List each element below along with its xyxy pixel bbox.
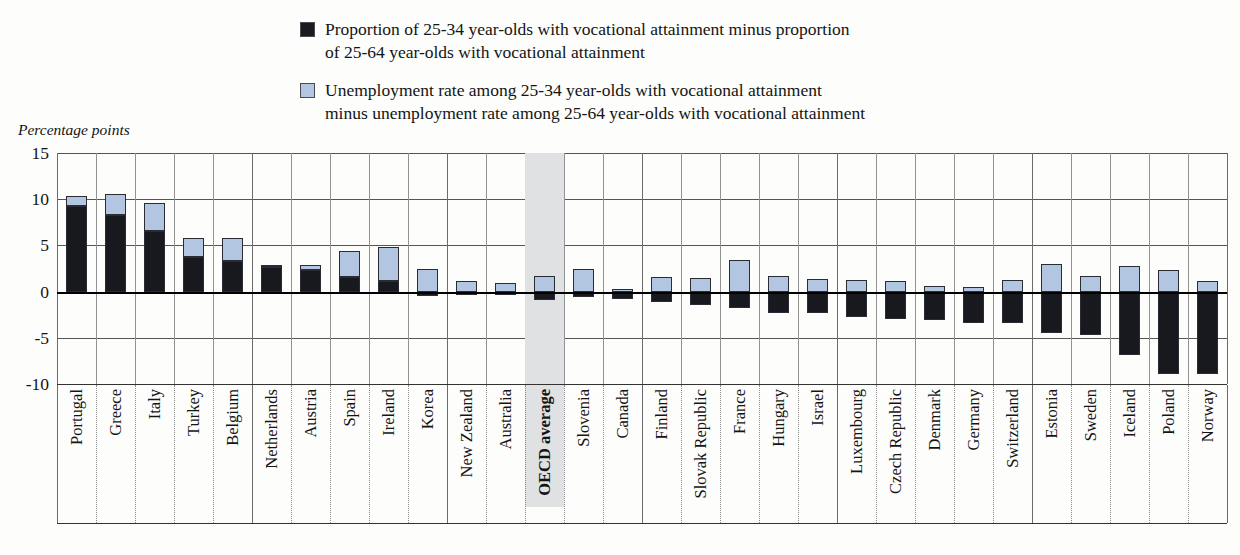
bar-group[interactable] [261, 153, 281, 384]
x-category-czech-republic[interactable]: Czech Republic [876, 385, 915, 525]
x-category-new-zealand[interactable]: New Zealand [447, 385, 486, 525]
bar-segment-attainment-gap [300, 270, 320, 291]
x-axis-category-labels: PortugalGreeceItalyTurkeyBelgiumNetherla… [57, 385, 1227, 525]
category-separator [993, 385, 994, 523]
bar-group[interactable] [807, 153, 827, 384]
bar-group[interactable] [456, 153, 476, 384]
bar-group[interactable] [846, 153, 866, 384]
legend-swatch-dark-icon [300, 22, 315, 37]
bar-group[interactable] [534, 153, 554, 384]
x-category-netherlands[interactable]: Netherlands [252, 385, 291, 525]
category-separator [252, 385, 253, 523]
bar-segment-attainment-gap [729, 292, 749, 309]
x-category-sweden[interactable]: Sweden [1071, 385, 1110, 525]
x-category-australia[interactable]: Australia [486, 385, 525, 525]
bar-group[interactable] [105, 153, 125, 384]
x-category-finland[interactable]: Finland [642, 385, 681, 525]
bar-group[interactable] [222, 153, 242, 384]
x-category-luxembourg[interactable]: Luxembourg [837, 385, 876, 525]
x-category-slovenia[interactable]: Slovenia [564, 385, 603, 525]
bar-group[interactable] [612, 153, 632, 384]
category-label: Sweden [1082, 389, 1099, 441]
bar-group[interactable] [690, 153, 710, 384]
bar-group[interactable] [573, 153, 593, 384]
y-tick-label: 15 [5, 143, 49, 164]
category-label: OECD average [536, 389, 553, 496]
bar-segment-attainment-gap [807, 292, 827, 313]
chart-plot-area: 151050-5-10 [57, 153, 1227, 384]
bar-group[interactable] [768, 153, 788, 384]
category-separator [798, 385, 799, 523]
bar-group[interactable] [651, 153, 671, 384]
bar-group[interactable] [1158, 153, 1178, 384]
y-tick-label: 10 [5, 189, 49, 210]
x-category-france[interactable]: France [720, 385, 759, 525]
x-category-turkey[interactable]: Turkey [174, 385, 213, 525]
x-category-spain[interactable]: Spain [330, 385, 369, 525]
x-category-portugal[interactable]: Portugal [57, 385, 96, 525]
category-area-right-edge [1227, 385, 1228, 525]
category-separator [330, 385, 331, 523]
bar-group[interactable] [417, 153, 437, 384]
bar-group[interactable] [885, 153, 905, 384]
x-category-iceland[interactable]: Iceland [1110, 385, 1149, 525]
x-category-norway[interactable]: Norway [1188, 385, 1227, 525]
category-label: Korea [419, 389, 436, 429]
x-category-israel[interactable]: Israel [798, 385, 837, 525]
x-category-italy[interactable]: Italy [135, 385, 174, 525]
x-category-slovak-republic[interactable]: Slovak Republic [681, 385, 720, 525]
legend-line-1: Unemployment rate among 25-34 year-olds … [325, 79, 865, 102]
bar-group[interactable] [183, 153, 203, 384]
x-category-austria[interactable]: Austria [291, 385, 330, 525]
bar-segment-unemployment-gap [495, 283, 515, 291]
y-tick-label: -5 [5, 327, 49, 348]
bar-segment-attainment-gap [222, 261, 242, 291]
x-category-korea[interactable]: Korea [408, 385, 447, 525]
bar-segment-attainment-gap [885, 292, 905, 320]
category-separator [837, 385, 838, 523]
bar-segment-attainment-gap [378, 281, 398, 291]
bar-group[interactable] [729, 153, 749, 384]
y-tick-label: -10 [5, 374, 49, 395]
x-category-hungary[interactable]: Hungary [759, 385, 798, 525]
x-category-denmark[interactable]: Denmark [915, 385, 954, 525]
bar-group[interactable] [963, 153, 983, 384]
category-label: Estonia [1043, 389, 1060, 439]
bar-segment-attainment-gap [1002, 292, 1022, 323]
x-category-oecd-average[interactable]: OECD average [525, 385, 564, 525]
category-separator [954, 385, 955, 523]
x-category-estonia[interactable]: Estonia [1032, 385, 1071, 525]
bar-group[interactable] [300, 153, 320, 384]
bar-segment-unemployment-gap [66, 196, 86, 205]
x-category-switzerland[interactable]: Switzerland [993, 385, 1032, 525]
x-category-greece[interactable]: Greece [96, 385, 135, 525]
bar-segment-attainment-gap [1158, 292, 1178, 374]
zero-line [57, 292, 1227, 294]
bar-group[interactable] [1119, 153, 1139, 384]
plot-separator [1227, 153, 1228, 384]
bar-group[interactable] [339, 153, 359, 384]
bar-segment-attainment-gap [105, 215, 125, 292]
bar-group[interactable] [1002, 153, 1022, 384]
bar-group[interactable] [66, 153, 86, 384]
bar-segment-attainment-gap [924, 292, 944, 321]
bar-group[interactable] [144, 153, 164, 384]
x-category-belgium[interactable]: Belgium [213, 385, 252, 525]
legend-entry-vocational-attainment-gap: Proportion of 25-34 year-olds with vocat… [300, 18, 1020, 65]
bar-segment-unemployment-gap [378, 247, 398, 281]
x-category-poland[interactable]: Poland [1149, 385, 1188, 525]
bar-group[interactable] [1041, 153, 1061, 384]
bar-group[interactable] [924, 153, 944, 384]
category-separator [720, 385, 721, 523]
x-category-canada[interactable]: Canada [603, 385, 642, 525]
bar-group[interactable] [378, 153, 398, 384]
category-label: Iceland [1121, 389, 1138, 438]
category-label: Ireland [380, 389, 397, 436]
bar-group[interactable] [495, 153, 515, 384]
bar-segment-unemployment-gap [1197, 281, 1217, 291]
bar-group[interactable] [1080, 153, 1100, 384]
bar-group[interactable] [1197, 153, 1217, 384]
x-category-ireland[interactable]: Ireland [369, 385, 408, 525]
category-label: Israel [809, 389, 826, 426]
x-category-germany[interactable]: Germany [954, 385, 993, 525]
